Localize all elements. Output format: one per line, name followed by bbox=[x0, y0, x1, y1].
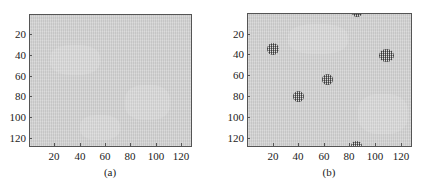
y-tick-label: 20 bbox=[0, 28, 26, 40]
x-tick-label: 20 bbox=[261, 150, 285, 162]
x-tick-label: 100 bbox=[363, 150, 387, 162]
caption-a: (a) bbox=[95, 166, 125, 178]
y-tickmark bbox=[247, 96, 250, 97]
x-tickmark bbox=[156, 143, 157, 146]
y-tickmark bbox=[29, 34, 32, 35]
x-tickmark bbox=[181, 143, 182, 146]
y-tick-label: 40 bbox=[0, 49, 26, 61]
x-tick-label: 60 bbox=[312, 150, 336, 162]
x-tick-label: 100 bbox=[144, 150, 168, 162]
y-tick-label: 100 bbox=[216, 111, 244, 123]
x-tickmark bbox=[349, 143, 350, 146]
feature-spot bbox=[322, 74, 333, 85]
y-tick-label: 40 bbox=[216, 48, 244, 60]
x-tick-label: 60 bbox=[93, 150, 117, 162]
feature-spot bbox=[293, 91, 304, 102]
y-tick-label: 80 bbox=[216, 90, 244, 102]
y-tick-label: 60 bbox=[0, 70, 26, 82]
x-tickmark bbox=[298, 143, 299, 146]
feature-spot bbox=[267, 43, 279, 55]
y-tick-label: 120 bbox=[0, 132, 26, 144]
y-tickmark bbox=[29, 96, 32, 97]
y-tick-label: 20 bbox=[216, 28, 244, 40]
y-tickmark bbox=[247, 75, 250, 76]
y-tickmark bbox=[247, 117, 250, 118]
y-tick-label: 100 bbox=[0, 111, 26, 123]
y-tickmark bbox=[247, 54, 250, 55]
y-tickmark bbox=[247, 34, 250, 35]
y-tickmark bbox=[247, 138, 250, 139]
texture-patch bbox=[80, 115, 120, 140]
x-tickmark bbox=[80, 143, 81, 146]
x-tickmark bbox=[401, 143, 402, 146]
x-tickmark bbox=[324, 143, 325, 146]
y-tick-label: 120 bbox=[216, 132, 244, 144]
texture-patch bbox=[358, 94, 408, 134]
feature-spot bbox=[352, 13, 362, 17]
x-tickmark bbox=[130, 143, 131, 146]
y-tick-label: 60 bbox=[216, 69, 244, 81]
feature-spot bbox=[379, 49, 394, 62]
x-tickmark bbox=[54, 143, 55, 146]
texture-patch bbox=[50, 45, 100, 75]
x-tickmark bbox=[273, 143, 274, 146]
x-tick-label: 20 bbox=[42, 150, 66, 162]
feature-spot bbox=[351, 141, 362, 147]
y-tickmark bbox=[29, 138, 32, 139]
caption-b: (b) bbox=[314, 166, 344, 178]
x-tickmark bbox=[375, 143, 376, 146]
y-tickmark bbox=[29, 117, 32, 118]
texture-patch bbox=[288, 24, 348, 54]
x-tickmark bbox=[105, 143, 106, 146]
heatmap-b bbox=[247, 13, 412, 147]
texture-patch bbox=[125, 85, 170, 120]
y-tickmark bbox=[29, 76, 32, 77]
x-tick-label: 120 bbox=[389, 150, 413, 162]
y-tick-label: 80 bbox=[0, 90, 26, 102]
y-tickmark bbox=[29, 55, 32, 56]
x-tick-label: 120 bbox=[169, 150, 193, 162]
heatmap-a bbox=[29, 14, 192, 147]
x-tick-label: 40 bbox=[286, 150, 310, 162]
x-tick-label: 40 bbox=[68, 150, 92, 162]
x-tick-label: 80 bbox=[337, 150, 361, 162]
x-tick-label: 80 bbox=[118, 150, 142, 162]
